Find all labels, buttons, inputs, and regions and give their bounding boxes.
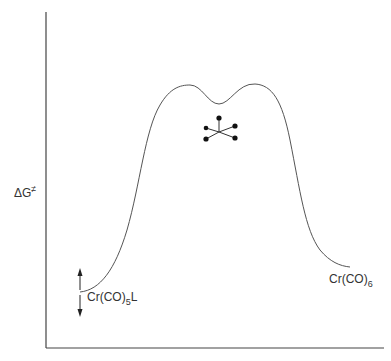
product-formula: Cr(CO) (329, 272, 368, 286)
reactant-subscript: 5 (126, 297, 131, 307)
double-dagger-superscript: ≠ (31, 184, 36, 194)
delta-g-text: ΔG (14, 186, 31, 200)
y-axis-label: ΔG≠ (14, 186, 36, 200)
energy-diagram (0, 0, 391, 361)
energy-arrow-icon (78, 268, 83, 317)
energy-curve (80, 84, 350, 292)
seven-coordinate-intermediate-icon (203, 115, 237, 141)
reactant-formula: Cr(CO) (87, 290, 126, 304)
product-label: Cr(CO)6 (329, 272, 373, 286)
reactant-ligand: L (131, 290, 138, 304)
product-subscript: 6 (368, 279, 373, 289)
reactant-label: Cr(CO)5L (87, 290, 137, 304)
